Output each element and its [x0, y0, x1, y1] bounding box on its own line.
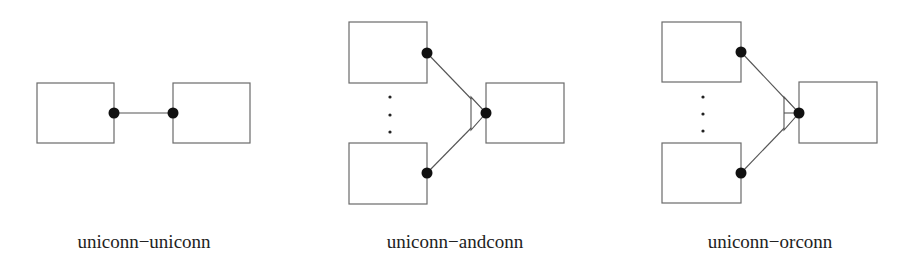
panel-caption: uniconn−orconn	[708, 231, 833, 252]
panel-caption: uniconn−andconn	[387, 231, 524, 252]
connection-line	[427, 53, 478, 106]
ellipsis-dot	[701, 129, 704, 132]
connector-diagram: uniconn−uniconn uniconn−andconn unico	[0, 0, 906, 264]
uniconn-port-icon	[168, 108, 179, 119]
panel-caption: uniconn−uniconn	[77, 231, 211, 252]
orconn-port-icon	[794, 108, 805, 119]
uniconn-port-icon	[736, 168, 747, 179]
source-box-top	[662, 22, 741, 82]
panel-uniconn-orconn: uniconn−orconn	[662, 22, 877, 252]
connection-line	[427, 121, 478, 173]
ellipsis-dot	[388, 95, 391, 98]
ellipsis-dot	[701, 95, 704, 98]
source-box-bottom	[662, 143, 741, 203]
target-box	[799, 82, 877, 143]
target-box	[486, 83, 564, 143]
source-box-top	[349, 22, 427, 83]
ellipsis-dot	[388, 130, 391, 133]
source-box	[37, 83, 114, 143]
ellipsis-dot	[701, 112, 704, 115]
uniconn-port-icon	[736, 47, 747, 58]
andconn-port-icon	[481, 108, 492, 119]
target-box	[173, 83, 250, 143]
uniconn-port-icon	[422, 48, 433, 59]
ellipsis-dot	[388, 113, 391, 116]
uniconn-port-icon	[422, 168, 433, 179]
source-box-bottom	[349, 143, 427, 204]
panel-uniconn-uniconn: uniconn−uniconn	[37, 83, 250, 252]
uniconn-port-icon	[109, 108, 120, 119]
panel-uniconn-andconn: uniconn−andconn	[349, 22, 564, 252]
